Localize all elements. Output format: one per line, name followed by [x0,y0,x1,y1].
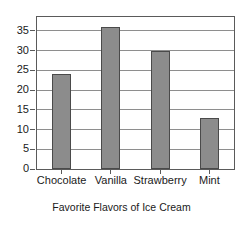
y-axis-label: 5 [0,143,29,154]
y-axis-tick [30,50,35,51]
y-axis-tick [30,129,35,130]
y-axis-label: 0 [0,163,29,174]
bar [200,118,219,169]
bar [101,27,120,169]
y-axis-tick [30,70,35,71]
y-axis-tick [30,149,35,150]
y-axis-tick [30,109,35,110]
y-axis-tick [30,30,35,31]
plot-area [36,16,235,170]
y-axis-label: 30 [0,45,29,56]
gridline [37,50,234,51]
y-axis-label: 35 [0,25,29,36]
bar [151,51,170,169]
y-axis-label: 10 [0,124,29,135]
y-axis-label: 20 [0,84,29,95]
y-axis-tick [30,90,35,91]
y-axis-label: 25 [0,64,29,75]
gridline [37,30,234,31]
bar-chart: 05101520253035 ChocolateVanillaStrawberr… [0,0,243,227]
x-axis-title: Favorite Flavors of Ice Cream [0,202,243,213]
y-axis-label: 15 [0,104,29,115]
gridline [37,70,234,71]
bar [52,74,71,169]
y-axis-tick [30,169,35,170]
x-axis-category-label: Mint [159,175,243,186]
